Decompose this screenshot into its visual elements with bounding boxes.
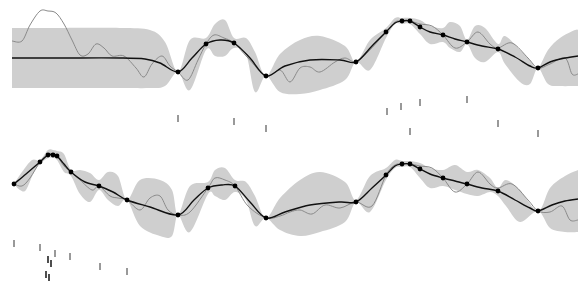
- observation-point: [233, 184, 238, 189]
- panel-bottom: [12, 149, 578, 281]
- observation-point: [46, 153, 51, 158]
- gp-plot-canvas: [0, 0, 587, 296]
- observation-point: [264, 216, 269, 221]
- observation-point: [400, 162, 405, 167]
- observation-point: [38, 160, 43, 165]
- sample-tick-marks: [14, 240, 127, 281]
- observation-point: [400, 19, 405, 24]
- confidence-band: [12, 17, 578, 94]
- observation-point: [354, 60, 359, 65]
- observation-point: [232, 41, 237, 46]
- observation-point: [206, 186, 211, 191]
- observation-point: [418, 25, 423, 30]
- observation-point: [204, 42, 209, 47]
- observation-point: [354, 200, 359, 205]
- observation-point: [496, 47, 501, 52]
- observation-point: [97, 184, 102, 189]
- observation-point: [441, 33, 446, 38]
- sample-tick-marks: [178, 96, 538, 137]
- observation-point: [465, 40, 470, 45]
- observation-point: [536, 209, 541, 214]
- observation-point: [264, 74, 269, 79]
- gp-regression-figure: [0, 0, 587, 296]
- observation-point: [536, 66, 541, 71]
- observation-point: [496, 189, 501, 194]
- observation-point: [418, 167, 423, 172]
- observation-point: [51, 153, 56, 158]
- observation-point: [465, 182, 470, 187]
- observation-point: [69, 170, 74, 175]
- observation-point: [176, 70, 181, 75]
- observation-point: [176, 213, 181, 218]
- observation-point: [12, 182, 17, 187]
- observation-point: [408, 19, 413, 24]
- observation-point: [441, 176, 446, 181]
- observation-point: [125, 198, 130, 203]
- observation-point: [384, 30, 389, 35]
- observation-point: [55, 154, 60, 159]
- observation-point: [408, 162, 413, 167]
- observation-point: [384, 173, 389, 178]
- confidence-band: [14, 149, 578, 238]
- panel-top: [12, 10, 578, 137]
